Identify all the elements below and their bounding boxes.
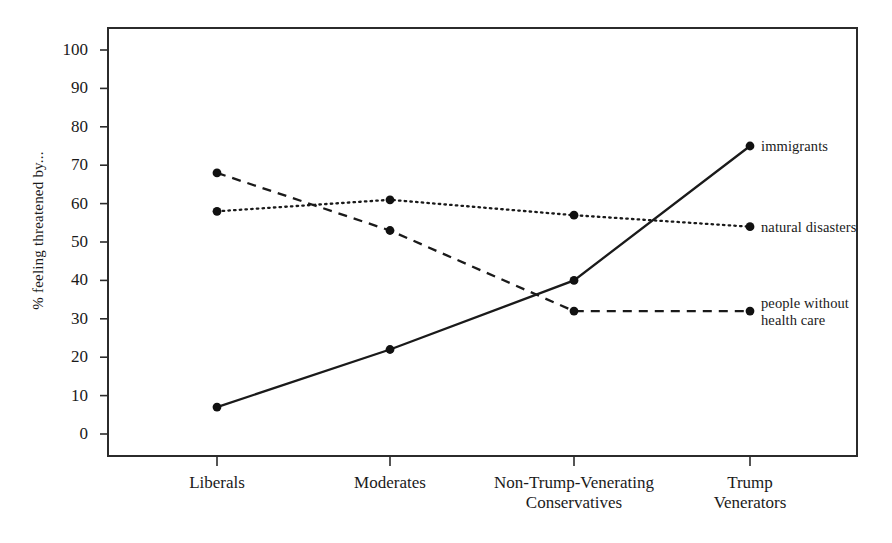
line-chart-plot xyxy=(0,0,892,543)
series-label-natural-disasters: natural disasters xyxy=(761,219,857,236)
y-tick-label-100: 100 xyxy=(46,41,88,58)
x-tick-label-liberals: Liberals xyxy=(137,473,297,493)
y-tick-label-20: 20 xyxy=(46,348,88,365)
y-axis-title: % feeling threatened by... xyxy=(30,81,47,381)
y-tick-label-80: 80 xyxy=(46,118,88,135)
x-tick-label-trump-venerators: Trump Venerators xyxy=(670,473,830,513)
series-label-immigrants: immigrants xyxy=(761,138,828,155)
y-tick-label-70: 70 xyxy=(46,156,88,173)
x-tick-label-non-trump-venerating-conservatives: Non-Trump-Venerating Conservatives xyxy=(454,473,694,513)
y-tick-label-50: 50 xyxy=(46,233,88,250)
y-tick-label-0: 0 xyxy=(46,425,88,442)
y-tick-label-60: 60 xyxy=(46,195,88,212)
y-tick-label-90: 90 xyxy=(46,79,88,96)
y-tick-label-40: 40 xyxy=(46,271,88,288)
series-label-people-without-health-care: people without health care xyxy=(761,295,849,330)
x-tick-label-moderates: Moderates xyxy=(310,473,470,493)
y-tick-label-30: 30 xyxy=(46,310,88,327)
chart-background xyxy=(0,0,892,543)
y-tick-label-10: 10 xyxy=(46,387,88,404)
chart-figure: % feeling threatened by... 100 90 80 70 … xyxy=(0,0,892,543)
